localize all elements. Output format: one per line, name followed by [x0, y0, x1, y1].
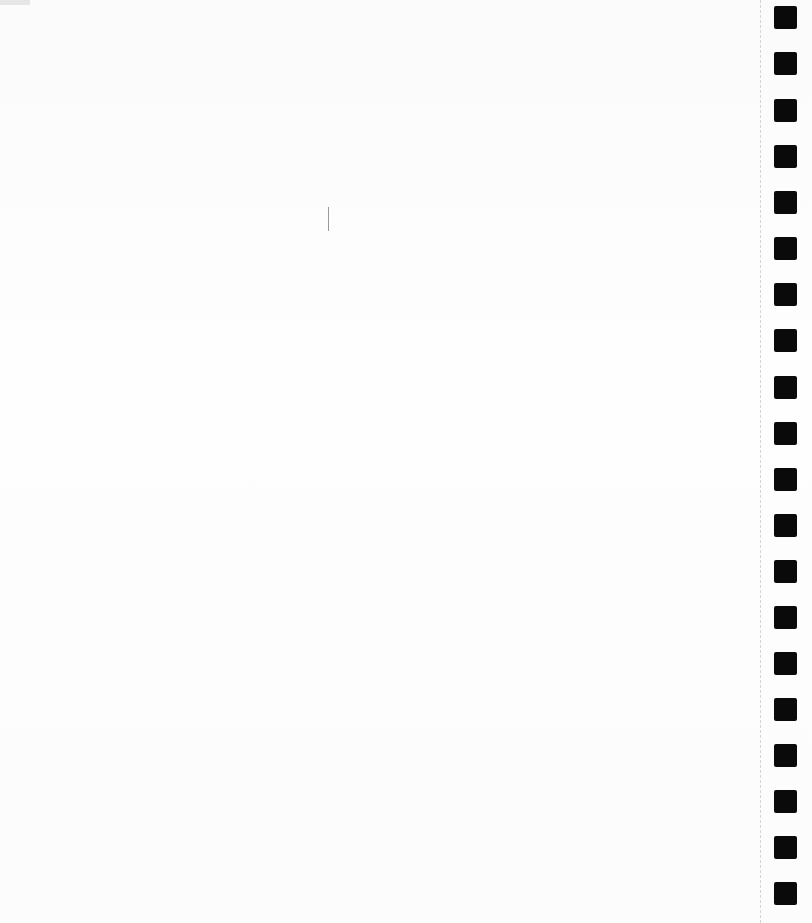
- perforation-line: [760, 0, 761, 923]
- binder-hole: [774, 376, 797, 399]
- text-cursor-mark: [328, 207, 329, 231]
- notebook-page: [0, 0, 812, 923]
- binder-hole: [774, 283, 797, 306]
- binder-hole: [774, 560, 797, 583]
- binder-hole: [774, 744, 797, 767]
- binder-hole: [774, 191, 797, 214]
- binder-hole: [774, 422, 797, 445]
- binder-hole: [774, 329, 797, 352]
- binder-hole: [774, 52, 797, 75]
- binder-hole: [774, 468, 797, 491]
- binder-hole: [774, 652, 797, 675]
- binder-hole: [774, 698, 797, 721]
- binder-hole: [774, 237, 797, 260]
- corner-shadow: [0, 0, 30, 5]
- binder-hole: [774, 882, 797, 905]
- binder-hole: [774, 145, 797, 168]
- binder-hole: [774, 836, 797, 859]
- binder-hole: [774, 606, 797, 629]
- binder-hole: [774, 790, 797, 813]
- binder-hole: [774, 6, 797, 29]
- binder-hole: [774, 99, 797, 122]
- binder-hole: [774, 514, 797, 537]
